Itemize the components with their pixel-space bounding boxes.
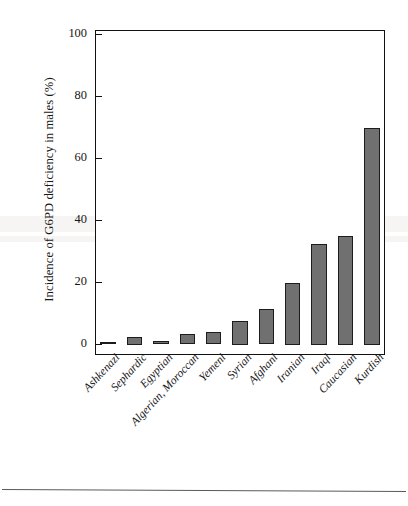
- x-tick-label-text: Algerian, Moroccan: [128, 351, 201, 428]
- bar-syrian: [232, 321, 248, 344]
- bar-yemeni: [206, 332, 222, 344]
- y-tick-label: 20: [47, 274, 87, 289]
- figure-g6pd-deficiency-bar-chart: Incidence of G6PD deficiency in males (%…: [0, 0, 408, 506]
- y-tick-label: 80: [47, 88, 87, 103]
- x-tick-label-text: Ashkenazi: [81, 351, 123, 394]
- y-tick-label: 60: [47, 150, 87, 165]
- x-tick-label-text: Syrian: [224, 351, 254, 382]
- y-tick-label: 100: [47, 26, 87, 41]
- bar-ashkenazi: [100, 342, 116, 344]
- bar-sephardic: [127, 337, 143, 345]
- bar-series: [95, 30, 385, 355]
- bar-egyptian: [153, 341, 169, 344]
- bar-algerian-moroccan: [180, 334, 196, 345]
- x-tick-label-text: Sephardic: [108, 351, 149, 394]
- x-tick-label-text: Afghani: [246, 351, 281, 387]
- x-tick-label-text: Yemeni: [196, 351, 228, 384]
- bar-kurdish: [364, 128, 380, 345]
- bar-iranian: [285, 283, 301, 345]
- x-tick-label-text: Iranian: [274, 351, 307, 385]
- bar-iraqi: [311, 244, 327, 345]
- x-tick-label-text: Caucasian: [317, 351, 360, 396]
- y-tick-label: 40: [47, 212, 87, 227]
- y-axis-label: Incidence of G6PD deficiency in males (%…: [42, 30, 57, 350]
- x-tick-label-text: Egyptian: [137, 351, 175, 390]
- x-tick-label-text: Kurdish: [352, 351, 387, 387]
- bar-afghani: [259, 309, 275, 345]
- bar-caucasian: [338, 236, 354, 345]
- figure-bottom-rule: [2, 489, 406, 492]
- y-tick-label: 0: [47, 336, 87, 351]
